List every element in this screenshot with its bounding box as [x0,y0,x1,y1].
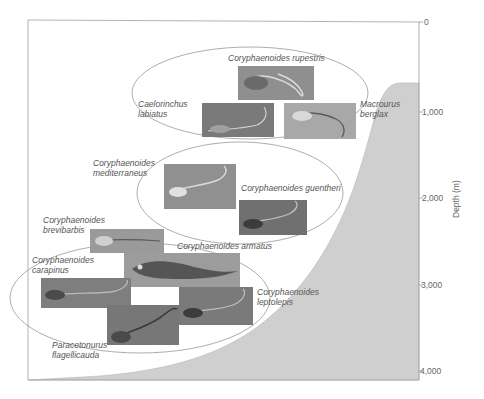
depth-tick-1000: 1,000 [422,107,443,117]
label-macrourus-berglax: Macrourus berglax [360,99,400,119]
depth-tick-3000: 3,000 [421,280,442,290]
photo-coryphaenoides-carapinus [41,278,131,308]
photo-macrourus-berglax [284,103,356,139]
photo-gap-1 [90,253,124,275]
photo-coryphaenoides-leptolepis [179,287,253,325]
label-paracetonurus-flagellicauda: Paracetonurus flagellicauda [52,340,107,360]
photo-coryphaenoides-rupestris [238,66,314,100]
photo-paracetonurus-flagellicauda [107,305,179,345]
photo-gap-2 [131,287,179,304]
depth-tick-2000: 2,000 [422,193,443,203]
photo-coryphaenoides-armatus [124,253,240,287]
label-coryphaenoides-rupestris: Coryphaenoides rupestris [228,53,325,63]
label-coryphaenoides-carapinus: Coryphaenoides carapinus [32,255,94,275]
photo-coryphaenoides-mediterraneus [164,164,236,209]
depth-axis-title: Depth (m) [451,180,461,218]
label-coryphaenoides-leptolepis: Coryphaenoides leptolepis [257,287,319,307]
depth-tick-0: 0 [424,17,429,27]
label-coryphaenoides-mediterraneus: Coryphaenoides mediterraneus [93,158,155,178]
depth-distribution-figure: Coryphaenoides rupestris Caelorinchus la… [0,0,484,399]
photo-coryphaenoides-guentheri [239,200,307,235]
label-caelorinchus-labiatus: Caelorinchus labiatus [138,99,188,119]
photo-caelorinchus-labiatus [202,103,274,137]
depth-tick-4000: 4,000 [420,366,441,376]
label-coryphaenoides-armatus: Coryphaenoides armatus [177,241,272,251]
label-coryphaenoides-brevibarbis: Coryphaenoides brevibarbis [43,215,105,235]
label-coryphaenoides-guentheri: Coryphaenoides guentheri [241,183,341,193]
